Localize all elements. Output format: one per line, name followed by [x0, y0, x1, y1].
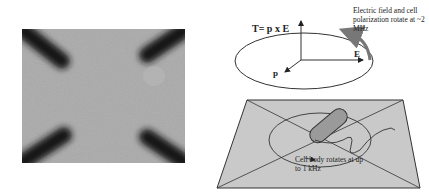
cell-rotation-note: Cell body rotates at up to 1 kHz [295, 155, 365, 173]
micrograph-image [22, 29, 185, 163]
rotation-diagram: T= p x E Electric field and cell polariz… [215, 0, 429, 193]
cell [143, 66, 165, 86]
p-vector [285, 60, 301, 72]
torque-equation: T= p x E [252, 23, 289, 34]
rotation-orbit-top [235, 33, 373, 89]
E-label: E [354, 49, 360, 59]
field-rotation-note: Electric field and cell polarization rot… [353, 6, 429, 33]
p-label: p [273, 68, 278, 78]
